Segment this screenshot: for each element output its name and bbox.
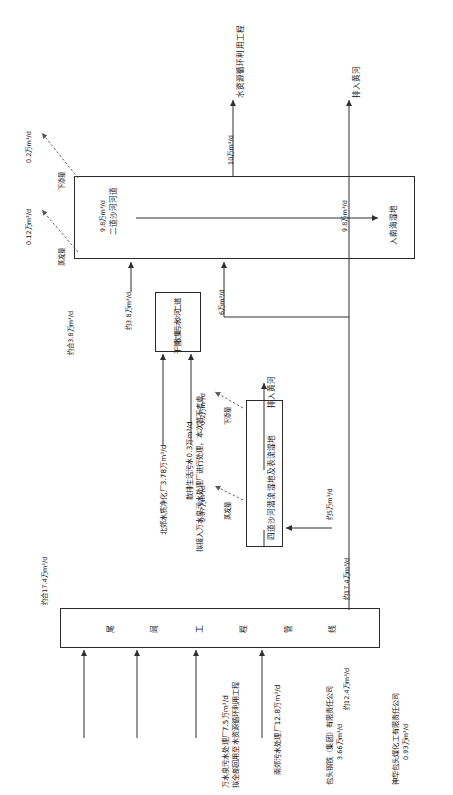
node-wetland-label: 四道沙河潜流湿地及表流湿地 (268, 435, 277, 540)
flow-pipeline-total: 约17.4万m³/d (344, 558, 351, 600)
inflow-beijiao-plant: 北郊水质净化厂3.78万m³/d (160, 445, 168, 535)
pipeline-char-1: 闾 (148, 624, 159, 632)
flow-nanhai-out: 9.8万m³/d (342, 200, 349, 232)
source-2-name: 包头钢铁（集团）有限责任公司 (326, 686, 334, 785)
node-wetland-box (246, 400, 283, 547)
node-tailwater-pipeline-label: 尾 闾 工 程 管 线 (68, 612, 372, 644)
source-0-name: 万水泉污水处理厂7.5万m³/d (222, 695, 230, 788)
node-erdao-channel-flow: 9.8万m³/d (100, 200, 107, 232)
node-sewage-trunk-label: 二道 沙河 污水 收集 干管 (160, 300, 196, 353)
loss-erdao-evaporation-label: 蒸发量 (59, 248, 66, 266)
terminal-recycle-project: 水资源循环利用工程 (237, 25, 246, 98)
node-erdao-channel-box (74, 176, 415, 259)
trunk-char-4: 干管 (173, 340, 184, 354)
source-1-name: 南郊污水处理厂12.8万m³/d (274, 685, 282, 775)
node-erdao-channel-label: 二道沙河河道 (110, 186, 119, 235)
inflow-scattered-sewage-line2: 拟接入万水泉污水处理厂进行处理，本次暂不考虑 (196, 396, 204, 552)
loss-erdao-infiltration-value: 0.2万m³/d (26, 131, 33, 163)
pipeline-char-0: 尾 (103, 624, 114, 632)
flow-trunk-total: 约合3.8万m³/d (68, 311, 75, 355)
flow-wetland-in: 6万m³/d (219, 289, 226, 315)
pipeline-char-5: 线 (326, 624, 337, 632)
pipeline-char-4: 管 (281, 624, 292, 632)
source-3-name: 神华包头煤化工有限责任公司 (392, 693, 400, 785)
flow-pipeline-bypass: 约12.4万m³/d (344, 668, 351, 710)
terminal-yellow-river-mid: 排入黄河 (268, 376, 277, 408)
source-2-note: 3.66万m³/d (337, 724, 344, 760)
source-0-note: 拟全部回用至水资源循环利用工程 (232, 682, 240, 789)
flow-wetland-feed: 约5万m³/d (327, 488, 334, 520)
loss-wetland-infiltration-label: 下渗量 (225, 407, 232, 425)
pipeline-char-2: 工 (192, 624, 203, 632)
terminal-nanhai-wetland: 入南海湿地 (390, 205, 399, 246)
flow-trunk-to-channel: 约3.8万m³/d (126, 292, 133, 330)
connector-layer (0, 0, 453, 795)
flow-diagram-canvas: 水资源循环利用工程 排入黄河 入南海湿地 排入黄河 二道沙河河道 9.8万m³/… (0, 0, 453, 795)
inflow-scattered-sewage-line1: 散排生活污水0.3万m³/d (186, 421, 194, 500)
loss-wetland-evaporation-label: 蒸发量 (225, 502, 232, 520)
loss-erdao-evaporation-value: 0.12万m³/d (26, 209, 33, 245)
source-3-note: 0.93万m³/d (403, 724, 410, 760)
terminal-yellow-river-top: 排入黄河 (353, 66, 362, 98)
loss-erdao-infiltration-label: 下渗量 (59, 172, 66, 190)
pipeline-char-3: 程 (237, 624, 248, 632)
flow-pipeline-header: 约合17.4万m³/d (42, 557, 49, 605)
flow-recycle-out: 10万m³/d (228, 135, 235, 165)
